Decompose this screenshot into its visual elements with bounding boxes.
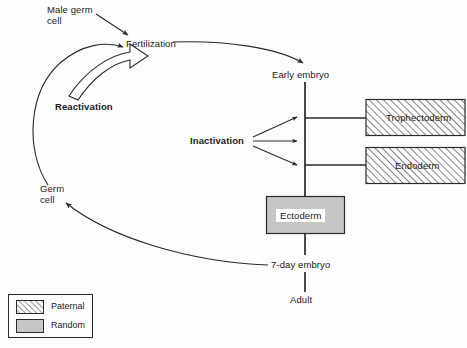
edge-male-germ-cell-to-fertilization (96, 14, 128, 35)
legend-swatch-paternal (17, 301, 44, 314)
edge-inactivation-to-trophectoderm (253, 117, 297, 137)
node-label-germ-cell: Germ cell (40, 183, 64, 205)
male-germ-cell-line1: Male germ (47, 4, 93, 15)
legend-swatch-random (17, 320, 44, 333)
edge-inactivation-to-endoderm (253, 146, 297, 165)
node-label-early-embryo: Early embryo (272, 69, 329, 80)
box-label-endoderm: Endoderm (395, 160, 440, 171)
reactivation-hollow-arrow (69, 44, 148, 100)
process-label-reactivation: Reactivation (55, 101, 113, 112)
node-label-7day-embryo: 7-day embryo (271, 259, 330, 270)
box-label-ectoderm: Ectoderm (276, 209, 325, 222)
germ-cell-line2: cell (40, 194, 55, 205)
male-germ-cell-line2: cell (47, 15, 62, 26)
node-label-fertilization: Fertilization (126, 38, 176, 49)
edge-fertilization-to-early-embryo (173, 42, 303, 63)
process-label-inactivation: Inactivation (190, 135, 244, 146)
node-label-adult: Adult (290, 294, 312, 305)
diagram-canvas: Male germ cell Fertilization Early embry… (0, 0, 467, 348)
germ-cell-line1: Germ (40, 183, 64, 194)
edge-7day-embryo-to-germ-cell (66, 203, 268, 265)
box-label-trophectoderm: Trophectoderm (386, 112, 451, 123)
diagram-graphics (0, 0, 467, 348)
node-label-male-germ-cell: Male germ cell (47, 4, 93, 26)
legend-label-paternal: Paternal (51, 301, 85, 311)
legend-label-random: Random (51, 320, 85, 330)
